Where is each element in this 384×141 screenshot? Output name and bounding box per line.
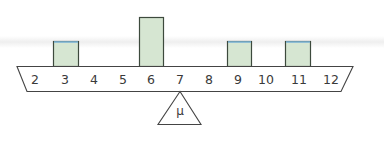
tick-label-2: 2 <box>31 72 39 87</box>
bar <box>140 18 164 67</box>
bar-value-3 <box>54 42 79 67</box>
tick-label-4: 4 <box>90 72 98 87</box>
tick-label-9: 9 <box>234 72 242 87</box>
bar <box>286 42 311 67</box>
bar <box>228 42 252 67</box>
tick-label-6: 6 <box>147 72 155 87</box>
tick-label-8: 8 <box>205 72 213 87</box>
tick-label-11: 11 <box>291 72 307 87</box>
bar-value-11 <box>286 42 311 67</box>
bars <box>54 18 311 67</box>
fulcrum-mean-label: μ <box>176 104 184 118</box>
fulcrum: μ <box>158 92 201 125</box>
bar-value-9 <box>228 42 252 67</box>
tick-label-3: 3 <box>61 72 69 87</box>
tick-label-12: 12 <box>323 72 339 87</box>
bar <box>54 42 79 67</box>
bar-value-6 <box>140 18 164 67</box>
tick-label-5: 5 <box>119 72 127 87</box>
tick-label-7: 7 <box>176 72 184 87</box>
tick-label-10: 10 <box>258 72 274 87</box>
balance-beam-diagram: 2 3 4 5 6 7 8 9 10 11 12 μ <box>0 0 384 141</box>
